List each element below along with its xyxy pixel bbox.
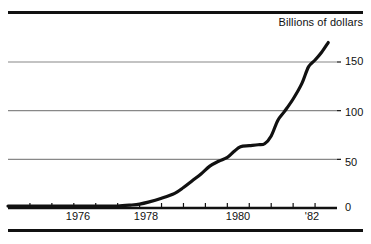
gridlines-group (8, 62, 337, 159)
y-axis-label-100: 100 (345, 106, 363, 118)
chart-plot-area (0, 0, 371, 244)
data-line-series-0 (8, 43, 328, 207)
x-axis-label-1980: 1980 (226, 210, 250, 222)
ytick-marks-group (337, 62, 341, 159)
chart-figure: Billions of dollars 150100500 1976197819… (0, 0, 371, 244)
x-axis-label-1976: 1976 (66, 210, 90, 222)
y-axis-label-150: 150 (345, 55, 363, 67)
y-axis-label-0: 0 (345, 201, 351, 213)
x-axis-label-1978: 1978 (134, 210, 158, 222)
bottom-rule (8, 229, 363, 232)
y-axis-label-50: 50 (345, 156, 357, 168)
x-axis-label-82: '82 (305, 210, 319, 222)
